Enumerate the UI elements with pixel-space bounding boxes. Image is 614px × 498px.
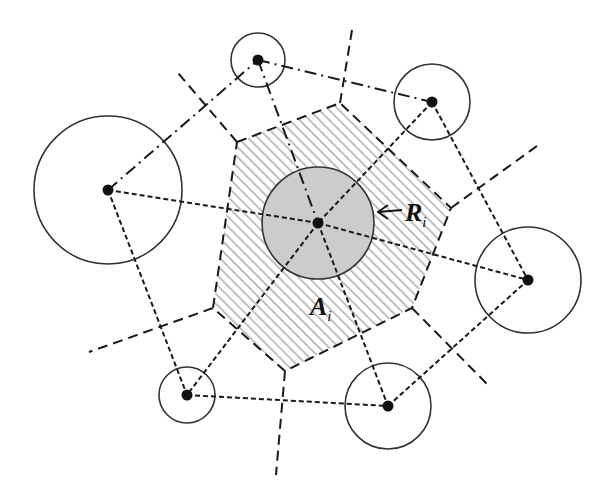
node-dot-center — [313, 218, 324, 229]
node-dot-top-right — [427, 97, 438, 108]
node-dot-left — [103, 185, 114, 196]
node-dot-right — [523, 275, 534, 286]
voronoi-diagram: Ri Ai — [0, 0, 614, 498]
node-dot-bottom — [383, 401, 394, 412]
node-dot-bottom-left — [182, 390, 193, 401]
node-dot-top — [253, 55, 264, 66]
